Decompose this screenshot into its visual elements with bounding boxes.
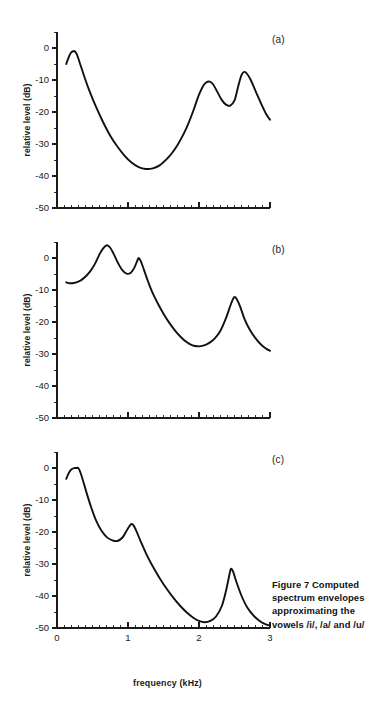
y-tick-label: -30 [35,348,49,359]
y-tick-label: -50 [35,412,49,423]
y-tick-label: -20 [35,106,49,117]
panel-b-tag: (b) [272,244,285,255]
caption-line-1: Figure 7 Computed [272,578,380,591]
y-tick-label: -30 [35,558,49,569]
panel-a: -50-40-30-20-100relative level (dB) (a) [0,18,384,228]
panel-b-curve [66,245,270,351]
y-tick-label: 0 [44,252,49,263]
y-tick-label: -30 [35,138,49,149]
caption-line-2: spectrum envelopes [272,591,380,604]
y-tick-label: -40 [35,380,49,391]
panel-a-plot: -50-40-30-20-100relative level (dB) [0,18,384,228]
panel-b: -50-40-30-20-100relative level (dB) (b) [0,228,384,438]
x-axis-label: frequency (kHz) [133,678,202,688]
x-tick-label: 2 [196,632,201,643]
y-axis-label: relative level (dB) [22,293,32,366]
y-tick-label: -20 [35,526,49,537]
y-tick-label: 0 [44,462,49,473]
y-tick-label: -40 [35,590,49,601]
x-tick-label: 1 [125,632,130,643]
figure-caption: Figure 7 Computed spectrum envelopes app… [272,578,380,631]
y-tick-label: 0 [44,42,49,53]
caption-line-3: approximating the [272,604,380,617]
panel-b-plot: -50-40-30-20-100relative level (dB) [0,228,384,438]
panel-b-axes: -50-40-30-20-100relative level (dB) [22,242,270,423]
panel-a-tag: (a) [272,34,285,45]
y-tick-label: -50 [35,622,49,633]
x-tick-label: 0 [54,632,59,643]
y-tick-label: -40 [35,170,49,181]
y-tick-label: -10 [35,494,49,505]
y-axis-label: relative level (dB) [22,83,32,156]
panel-a-curve [66,51,270,169]
y-tick-label: -50 [35,202,49,213]
y-tick-label: -10 [35,284,49,295]
y-axis-label: relative level (dB) [22,503,32,576]
panel-a-axes: -50-40-30-20-100relative level (dB) [22,32,270,213]
caption-line-4: vowels /i/, /a/ and /u/ [272,618,380,631]
panel-c-curve [66,468,270,626]
figure-container: -50-40-30-20-100relative level (dB) (a) … [0,0,384,718]
x-tick-label: 3 [267,632,272,643]
y-tick-label: -10 [35,74,49,85]
panel-c-axes: -50-40-30-20-1000123relative level (dB) [22,452,273,643]
y-tick-label: -20 [35,316,49,327]
panel-c-tag: (c) [272,454,284,465]
